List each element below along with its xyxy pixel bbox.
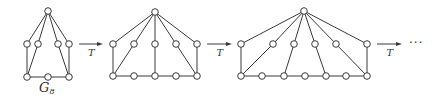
- graph-vertex: [194, 73, 201, 80]
- graph-vertex: [259, 73, 266, 80]
- graph-vertex: [131, 73, 138, 80]
- graph-edge: [27, 11, 48, 44]
- transform-arrow-2: T: [207, 42, 232, 58]
- graph-vertex: [238, 41, 245, 48]
- graph-edge: [284, 44, 294, 76]
- graph-label-subscript: 8: [49, 87, 54, 95]
- graph-vertex: [35, 41, 42, 48]
- graph-edge: [241, 44, 273, 76]
- graph-vertex: [291, 41, 298, 48]
- graph-vertex: [173, 41, 180, 48]
- graph-edge: [155, 12, 176, 44]
- graph-1-vertices: [24, 8, 73, 81]
- graph-sequence-diagram: TTT G8 ···: [0, 0, 443, 95]
- graph-edge: [48, 11, 58, 44]
- graph-edge: [304, 11, 336, 44]
- graph-vertex: [152, 41, 159, 48]
- graph-vertex: [55, 41, 62, 48]
- graph-3-edges: [241, 11, 367, 76]
- graph-edge: [38, 11, 48, 44]
- graph-vertex: [66, 41, 73, 48]
- graph-edge: [27, 44, 38, 77]
- graph-vertex: [110, 41, 117, 48]
- graph-3-vertices: [238, 8, 371, 80]
- graph-vertex: [281, 73, 288, 80]
- graph-edge: [176, 44, 197, 76]
- transform-label: T: [387, 47, 395, 58]
- graph-edge: [241, 11, 304, 44]
- graph-vertex: [312, 41, 319, 48]
- graph-edge: [155, 12, 197, 44]
- transform-arrow-3: T: [377, 42, 402, 58]
- graph-vertex: [333, 41, 340, 48]
- graph-vertex: [302, 73, 309, 80]
- graph-vertex: [66, 74, 73, 81]
- arrow-head-icon: [396, 42, 402, 46]
- graph-edge: [315, 44, 326, 76]
- graph-label-g8: G8: [39, 80, 54, 95]
- arrow-head-icon: [226, 42, 232, 46]
- graph-vertex: [301, 8, 308, 15]
- graph-vertex: [110, 73, 117, 80]
- graph-edge: [48, 11, 69, 44]
- graph-vertex: [323, 73, 330, 80]
- graph-vertex: [270, 41, 277, 48]
- graph-vertex: [364, 41, 371, 48]
- graph-vertex: [152, 73, 159, 80]
- graph-vertex: [24, 41, 31, 48]
- graph-vertex: [173, 73, 180, 80]
- graph-edge: [113, 12, 155, 44]
- graph-vertex: [24, 74, 31, 81]
- transform-label: T: [88, 47, 96, 58]
- graph-vertex: [238, 73, 245, 80]
- graph-vertex: [343, 73, 350, 80]
- graph-1-edges: [27, 11, 69, 77]
- transform-arrow-1: T: [79, 42, 103, 58]
- graph-vertex: [152, 9, 159, 16]
- graph-label-main: G: [39, 80, 49, 95]
- graph-vertex: [45, 8, 52, 15]
- graph-vertex: [194, 41, 201, 48]
- graph-vertex: [364, 73, 371, 80]
- graph-edge: [336, 44, 367, 76]
- graph-edge: [134, 12, 155, 44]
- graph-edge: [113, 44, 134, 76]
- continuation-ellipsis: ···: [409, 36, 423, 50]
- arrow-head-icon: [97, 42, 103, 46]
- graph-edge: [58, 44, 69, 77]
- transform-label: T: [217, 47, 225, 58]
- graph-vertex: [131, 41, 138, 48]
